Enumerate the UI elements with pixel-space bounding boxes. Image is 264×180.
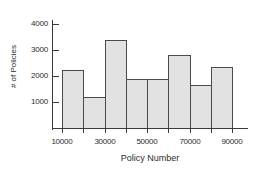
histogram-bar — [190, 85, 212, 128]
histogram-bar — [147, 79, 169, 128]
histogram-bar — [62, 70, 84, 129]
histogram-bar — [211, 67, 233, 128]
histogram-bar — [83, 97, 105, 128]
histogram-bar — [126, 79, 148, 128]
y-axis-title: # of Policies — [9, 27, 18, 107]
histogram-chart: 1000200030004000 10000300005000070000900… — [0, 0, 264, 180]
histogram-bar — [168, 55, 190, 128]
histogram-bar — [105, 40, 127, 128]
x-axis-title: Policy Number — [52, 153, 248, 163]
